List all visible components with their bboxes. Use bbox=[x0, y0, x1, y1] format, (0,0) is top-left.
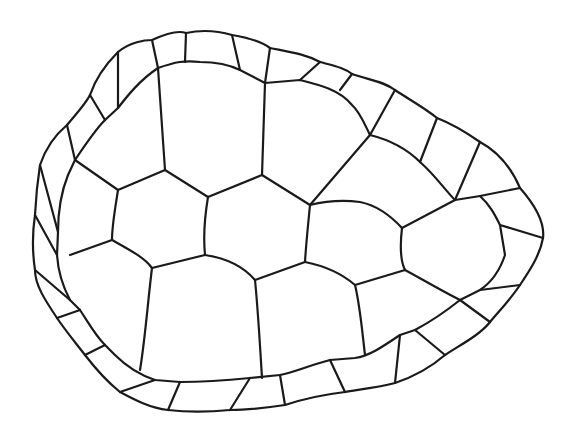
scute-divider-line bbox=[112, 240, 152, 268]
figure-canvas bbox=[0, 0, 568, 433]
scute-divider-line bbox=[255, 280, 262, 378]
marginal-divider-line bbox=[265, 48, 270, 83]
scute-divider-line bbox=[262, 175, 310, 205]
marginal-divider-line bbox=[460, 300, 490, 322]
marginal-divider-line bbox=[232, 35, 240, 70]
scute-divider-line bbox=[165, 170, 208, 197]
scute-divider-line bbox=[75, 160, 118, 190]
scute-divider-line bbox=[405, 270, 460, 300]
marginal-divider-line bbox=[168, 382, 180, 410]
central-scute-dividers bbox=[70, 68, 460, 378]
scute-divider-line bbox=[402, 200, 455, 228]
scute-divider-line bbox=[158, 68, 165, 170]
scute-divider-line bbox=[355, 270, 405, 285]
marginal-divider-line bbox=[480, 188, 520, 196]
scute-divider-line bbox=[255, 262, 305, 280]
marginal-divider-line bbox=[420, 118, 437, 162]
shell-inner-outline bbox=[57, 61, 505, 382]
marginal-divider-line bbox=[120, 380, 155, 392]
marginal-divider-line bbox=[185, 33, 186, 62]
marginal-divider-line bbox=[90, 95, 105, 120]
marginal-divider-line bbox=[500, 225, 543, 238]
marginal-divider-line bbox=[415, 330, 445, 355]
marginal-divider-line bbox=[35, 270, 70, 300]
marginal-divider-line bbox=[300, 62, 320, 80]
marginal-divider-line bbox=[230, 378, 250, 410]
scute-divider-line bbox=[112, 190, 118, 240]
marginal-divider-line bbox=[57, 310, 80, 318]
scute-divider-line bbox=[152, 255, 205, 268]
scute-divider-line bbox=[401, 228, 405, 270]
scute-divider-line bbox=[208, 175, 262, 197]
turtle-shell-drawing bbox=[0, 0, 568, 433]
scute-divider-line bbox=[118, 170, 165, 190]
marginal-divider-line bbox=[152, 40, 158, 68]
marginal-divider-line bbox=[280, 375, 285, 405]
scute-divider-line bbox=[305, 205, 310, 262]
marginal-divider-line bbox=[370, 90, 395, 135]
marginal-divider-line bbox=[35, 215, 57, 255]
marginal-divider-line bbox=[330, 360, 345, 392]
marginal-divider-line bbox=[455, 142, 480, 200]
scute-divider-line bbox=[205, 255, 255, 280]
marginal-divider-line bbox=[40, 165, 58, 232]
scute-divider-line bbox=[204, 197, 208, 255]
scute-divider-line bbox=[70, 240, 112, 255]
marginal-divider-line bbox=[395, 335, 400, 383]
scute-divider-line bbox=[262, 83, 265, 175]
shell-outer-outline bbox=[33, 31, 544, 412]
scute-divider-line bbox=[355, 285, 365, 355]
scute-divider-line bbox=[310, 135, 370, 205]
scute-divider-line bbox=[140, 268, 152, 370]
marginal-divider-line bbox=[85, 345, 105, 355]
marginal-divider-line bbox=[340, 74, 352, 90]
marginal-divider-line bbox=[67, 125, 75, 160]
scute-divider-line bbox=[310, 201, 402, 228]
scute-divider-line bbox=[305, 262, 355, 285]
marginal-scute-dividers bbox=[35, 33, 543, 410]
